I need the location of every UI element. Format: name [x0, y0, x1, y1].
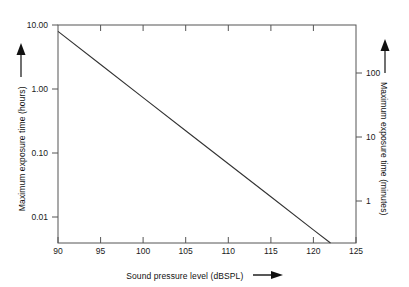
- y-axis-right-ticks: [356, 73, 362, 201]
- data-series-line: [58, 31, 331, 243]
- x-axis-top-ticks: [101, 25, 314, 31]
- y2-axis-title-group: Maximum exposure time (minutes): [377, 27, 395, 227]
- x-tick-label-110: 110: [208, 246, 248, 256]
- y-axis-title-text: Maximum exposure time (hours): [17, 86, 27, 211]
- x-tick-label-100: 100: [123, 246, 163, 256]
- x-tick-label-115: 115: [251, 246, 291, 256]
- y-axis-title-group: Maximum exposure time (hours): [11, 27, 29, 227]
- x-tick-label-95: 95: [81, 246, 121, 256]
- y-axis-left-ticks: [52, 25, 58, 217]
- x-axis-ticks: [58, 237, 356, 243]
- y2-axis-title-text: Maximum exposure time (minutes): [379, 82, 389, 215]
- chart-plot-area: [0, 0, 409, 287]
- plot-frame: [58, 25, 356, 243]
- x-tick-label-120: 120: [293, 246, 333, 256]
- chart-figure: 10.00 1.00 0.10 0.01 100 10 1 90 95 100 …: [0, 0, 409, 287]
- x-axis-arrow-icon: [253, 270, 283, 280]
- y-axis-arrow-icon: [16, 43, 26, 77]
- x-axis-title-text: Sound pressure level (dBSPL): [126, 271, 243, 281]
- x-tick-label-125: 125: [336, 246, 376, 256]
- x-tick-label-105: 105: [166, 246, 206, 256]
- y2-axis-arrow-icon: [380, 39, 390, 73]
- x-tick-label-90: 90: [38, 246, 78, 256]
- x-axis-title-group: Sound pressure level (dBSPL): [0, 265, 409, 283]
